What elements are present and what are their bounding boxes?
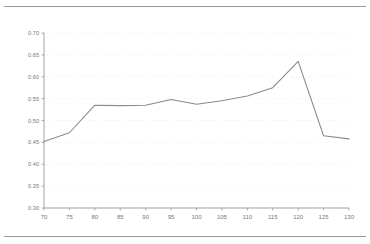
screenshot-root: 0.300.350.400.450.500.550.600.650.70 707… [0, 0, 370, 244]
x-tick-label: 100 [191, 214, 202, 220]
y-tick-label: 0.60 [28, 74, 39, 80]
y-tick-label: 0.50 [28, 118, 39, 124]
footer-divider [4, 236, 366, 237]
x-tick-label: 125 [319, 214, 330, 220]
x-tick-label: 85 [117, 214, 124, 220]
x-tick-label: 75 [66, 214, 73, 220]
y-tick-label: 0.30 [28, 205, 39, 211]
x-tick-label: 130 [344, 214, 355, 220]
x-axis-ticks: 707580859095100105110115120125130 [41, 208, 355, 220]
grid-lines [44, 33, 349, 208]
x-tick-label: 120 [293, 214, 304, 220]
x-tick-label: 110 [243, 214, 253, 220]
x-tick-label: 80 [91, 214, 98, 220]
y-tick-label: 0.35 [28, 183, 39, 189]
y-tick-label: 0.40 [28, 161, 39, 167]
x-tick-label: 95 [168, 214, 175, 220]
y-tick-label: 0.55 [28, 96, 39, 102]
data-series-line [44, 61, 349, 141]
x-tick-label: 115 [268, 214, 278, 220]
x-tick-label: 70 [41, 214, 48, 220]
x-tick-label: 105 [217, 214, 228, 220]
line-chart: 0.300.350.400.450.500.550.600.650.70 707… [0, 0, 370, 244]
chart-canvas: 0.300.350.400.450.500.550.600.650.70 707… [0, 0, 370, 244]
y-tick-label: 0.70 [28, 30, 39, 36]
y-tick-label: 0.65 [28, 52, 39, 58]
y-axis-ticks: 0.300.350.400.450.500.550.600.650.70 [28, 30, 44, 211]
x-tick-label: 90 [142, 214, 149, 220]
y-tick-label: 0.45 [28, 139, 39, 145]
